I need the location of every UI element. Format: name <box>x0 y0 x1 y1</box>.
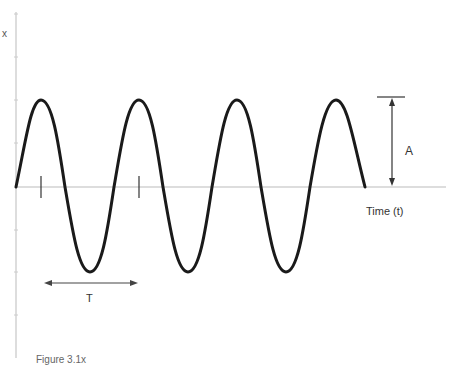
amplitude-arrow <box>377 97 405 186</box>
sine-wave <box>16 100 365 272</box>
time-axis-label: Time (t) <box>366 205 403 217</box>
y-axis-label: x <box>2 28 7 39</box>
period-arrow <box>44 280 138 286</box>
amplitude-label: A <box>405 144 413 158</box>
figure-caption: Figure 3.1x <box>36 354 86 365</box>
period-label: T <box>86 292 93 304</box>
